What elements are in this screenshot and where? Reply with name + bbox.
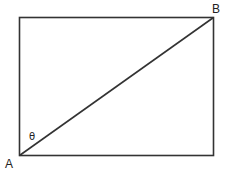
label-corner-b: B — [212, 2, 220, 16]
diagram-canvas: A B θ — [0, 0, 231, 173]
diagonal-line-a-to-b — [20, 18, 214, 156]
label-corner-a: A — [5, 157, 13, 171]
label-angle-theta: θ — [29, 131, 35, 142]
